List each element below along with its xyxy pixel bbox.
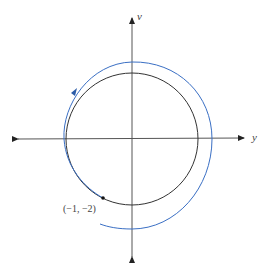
phase-plane-diagram: v y (−1, −2) [0, 0, 272, 268]
point-label: (−1, −2) [63, 203, 96, 215]
horizontal-axis-label: y [251, 131, 257, 143]
vertical-axis-label: v [137, 10, 142, 22]
horizontal-axis [18, 138, 244, 139]
initial-point [101, 196, 105, 200]
